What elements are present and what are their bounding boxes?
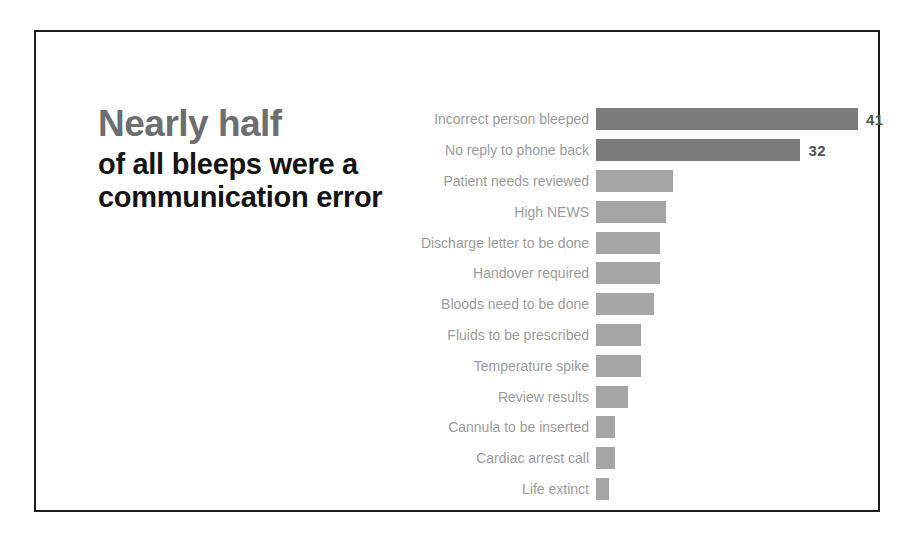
- category-label: Discharge letter to be done: [404, 235, 596, 251]
- bar: [596, 355, 641, 377]
- bar: [596, 293, 654, 315]
- category-label: Cardiac arrest call: [404, 450, 596, 466]
- bar: [596, 386, 628, 408]
- bar-row: Bloods need to be done: [404, 289, 904, 320]
- bar: [596, 324, 641, 346]
- category-label: Life extinct: [404, 481, 596, 497]
- bar: [596, 201, 666, 223]
- bar-row: Life extinct: [404, 474, 904, 505]
- bar-row: Cardiac arrest call: [404, 443, 904, 474]
- title-line-3: communication error: [98, 181, 418, 214]
- title-line-2: of all bleeps were a: [98, 148, 418, 181]
- value-label: 32: [808, 142, 826, 159]
- category-label: No reply to phone back: [404, 142, 596, 158]
- bar-row: Patient needs reviewed: [404, 166, 904, 197]
- category-label: High NEWS: [404, 204, 596, 220]
- bar-row: Discharge letter to be done: [404, 227, 904, 258]
- bar-row: No reply to phone back32: [404, 135, 904, 166]
- bar-row: High NEWS: [404, 196, 904, 227]
- category-label: Patient needs reviewed: [404, 173, 596, 189]
- category-label: Bloods need to be done: [404, 296, 596, 312]
- category-label: Fluids to be prescribed: [404, 327, 596, 343]
- bar: [596, 262, 660, 284]
- bar-row: Review results: [404, 381, 904, 412]
- bar: [596, 139, 800, 161]
- bar: [596, 447, 615, 469]
- title-body-text: of all bleeps were a communication error: [98, 148, 418, 214]
- slide-frame: Nearly half of all bleeps were a communi…: [34, 30, 880, 512]
- bar: [596, 478, 609, 500]
- title-highlight-text: Nearly half: [98, 104, 418, 144]
- category-label: Temperature spike: [404, 358, 596, 374]
- bar: [596, 170, 673, 192]
- category-label: Review results: [404, 389, 596, 405]
- bar-row: Incorrect person bleeped41: [404, 104, 904, 135]
- slide-title: Nearly half of all bleeps were a communi…: [98, 104, 418, 214]
- slide-canvas: Nearly half of all bleeps were a communi…: [0, 0, 909, 544]
- bar-row: Fluids to be prescribed: [404, 320, 904, 351]
- category-label: Cannula to be inserted: [404, 419, 596, 435]
- category-label: Handover required: [404, 265, 596, 281]
- bar: [596, 416, 615, 438]
- category-label: Incorrect person bleeped: [404, 111, 596, 127]
- bar-chart: Incorrect person bleeped41No reply to ph…: [404, 104, 904, 504]
- value-label: 41: [866, 111, 884, 128]
- bar-row: Temperature spike: [404, 350, 904, 381]
- bar: [596, 108, 858, 130]
- bar: [596, 232, 660, 254]
- bar-row: Cannula to be inserted: [404, 412, 904, 443]
- bar-row: Handover required: [404, 258, 904, 289]
